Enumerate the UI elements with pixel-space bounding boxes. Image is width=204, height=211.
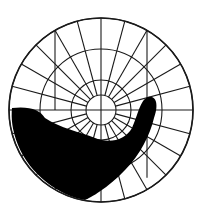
meridian xyxy=(12,86,86,106)
scotoma-region xyxy=(12,97,157,200)
visual-field-chart xyxy=(0,0,204,211)
meridian xyxy=(112,45,166,99)
meridian xyxy=(77,21,97,95)
meridian xyxy=(36,45,90,99)
meridian xyxy=(105,21,125,95)
